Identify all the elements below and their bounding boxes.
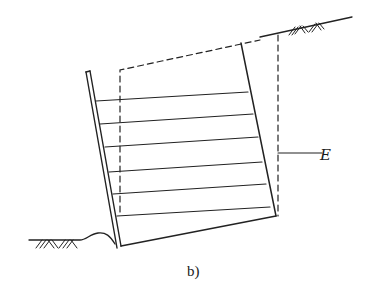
ground-surface-upper — [260, 17, 352, 37]
reinforcement-layer-6 — [117, 207, 270, 216]
reinforced-zone-base — [121, 216, 276, 246]
retaining-wall-diagram — [0, 0, 372, 296]
label-E: E — [320, 146, 331, 164]
reinforcement-layer-4 — [109, 162, 262, 172]
reinforced-zone-back-edge — [241, 43, 276, 216]
ground-surface-lower — [29, 233, 115, 248]
facing-wall — [86, 71, 121, 248]
reinforcement-layer-5 — [113, 184, 266, 194]
reinforcement-layer-2 — [100, 114, 253, 124]
reinforcement-layer-1 — [96, 92, 248, 101]
reinforcement-layer-3 — [105, 137, 258, 147]
reinforcement-layers — [96, 92, 270, 216]
figure-caption: b) — [187, 263, 200, 280]
